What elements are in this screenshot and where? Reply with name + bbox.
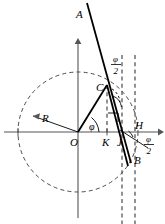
segment-OR (33, 116, 78, 132)
label-angle-phi-half-upper: φ 2 (111, 54, 121, 76)
phi-half-lower-denominator: 2 (147, 146, 152, 156)
label-angle-phi: φ (89, 121, 95, 132)
phi-half-upper-denominator: 2 (114, 66, 119, 76)
label-angle-phi-half-lower: φ 2 (144, 134, 154, 156)
phi-half-upper-numerator: φ (113, 54, 118, 64)
radius-arrowhead (33, 113, 40, 119)
label-point-C: C (96, 81, 104, 93)
label-point-O: O (70, 136, 78, 148)
label-point-B: B (134, 154, 141, 166)
x-axis-arrowhead (158, 129, 164, 136)
label-point-A: A (75, 8, 83, 20)
y-axis-arrowhead (75, 38, 82, 44)
phi-half-lower-numerator: φ (146, 134, 151, 144)
geometry-figure: A C O R K J H B φ φ 2 φ 2 (0, 0, 165, 224)
label-point-K: K (101, 136, 110, 148)
segment-CJ (107, 85, 128, 166)
label-radius-R: R (41, 112, 49, 124)
figure-canvas: A C O R K J H B φ φ 2 φ 2 (0, 0, 165, 224)
label-point-H: H (134, 119, 144, 131)
